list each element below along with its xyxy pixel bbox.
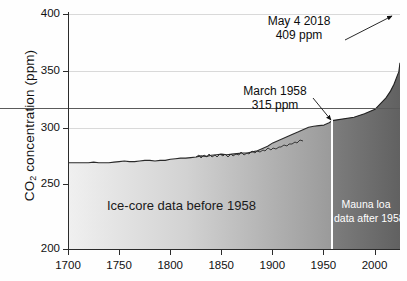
x-tick-1700 — [68, 250, 69, 255]
mauna-loa-label-line2: data after 1958 — [334, 211, 398, 225]
annotation-march-1958-line2: 315 ppm — [233, 98, 317, 112]
x-tick-2000 — [375, 250, 376, 255]
x-tick-label-1700: 1700 — [55, 259, 81, 271]
x-tick-label-1850: 1850 — [208, 259, 234, 271]
mauna-loa-label-line1: Mauna loa — [334, 197, 398, 211]
y-tick-label-300: 300 — [32, 121, 60, 133]
x-tick-1750 — [119, 250, 120, 255]
x-tick-1900 — [272, 250, 273, 255]
x-tick-label-1750: 1750 — [106, 259, 132, 271]
y-tick-label-250: 250 — [32, 177, 60, 189]
y-tick-label-200: 200 — [32, 242, 60, 254]
x-tick-label-1900: 1900 — [260, 259, 286, 271]
year-1958-divider — [331, 120, 333, 250]
x-tick-label-1950: 1950 — [311, 259, 337, 271]
annotation-may-2018: May 4 2018 409 ppm — [258, 14, 340, 42]
annotation-may-2018-line1: May 4 2018 — [258, 14, 340, 28]
y-axis-line — [68, 12, 69, 250]
ice-core-region-label: Ice-core data before 1958 — [107, 198, 256, 213]
y-tick-label-400: 400 — [32, 7, 60, 19]
annotation-may-2018-line2: 409 ppm — [258, 28, 340, 42]
x-tick-1950 — [323, 250, 324, 255]
x-tick-1800 — [170, 250, 171, 255]
x-tick-label-2000: 2000 — [362, 259, 388, 271]
ice-core-area — [68, 121, 332, 250]
co2-concentration-figure: CO2 concentration (ppm) — [0, 0, 407, 281]
reference-line-325ppm — [0, 108, 400, 109]
x-tick-label-1800: 1800 — [157, 259, 183, 271]
plot-area: 1700 1750 1800 1850 1900 1950 2000 Ice-c… — [68, 12, 400, 250]
annotation-march-1958: March 1958 315 ppm — [233, 84, 317, 112]
mauna-loa-region-label: Mauna loa data after 1958 — [334, 197, 398, 225]
y-tick-label-350: 350 — [32, 64, 60, 76]
annotation-march-1958-line1: March 1958 — [233, 84, 317, 98]
x-axis-line — [68, 249, 400, 250]
x-tick-1850 — [221, 250, 222, 255]
